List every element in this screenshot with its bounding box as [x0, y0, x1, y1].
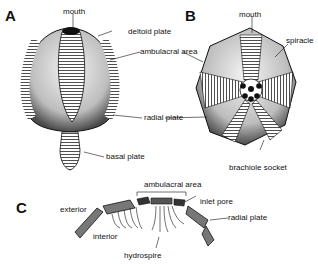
diagram-canvas [0, 0, 318, 264]
label-a-deltoid-plate: deltoid plate [128, 28, 171, 36]
label-c-hydrospire: hydrospire [124, 252, 161, 260]
label-a-basal-plate: basal plate [106, 153, 145, 161]
label-b-mouth: mouth [239, 11, 261, 19]
label-c-inlet-pore: inlet pore [200, 198, 233, 206]
label-c-exterior: exterior [60, 206, 87, 214]
label-c-radial-plate: radial plate [228, 214, 267, 222]
panel-label-c: C [16, 200, 27, 215]
label-b-spiracle: spiracle [286, 37, 314, 45]
panel-b-theca [165, 16, 296, 150]
panel-label-b: B [185, 8, 196, 23]
label-a-mouth: mouth [63, 8, 85, 16]
label-a-radial-plate: radial plate [144, 114, 183, 122]
label-b-brachiole-socket: brachiole socket [229, 164, 287, 172]
label-c-ambulacral-area: ambulacral area [144, 181, 201, 189]
panel-a-theca [23, 14, 142, 170]
label-a-ambulacral-area: ambulacral area [140, 48, 197, 56]
label-c-interior: interior [93, 233, 117, 241]
panel-label-a: A [5, 8, 16, 23]
